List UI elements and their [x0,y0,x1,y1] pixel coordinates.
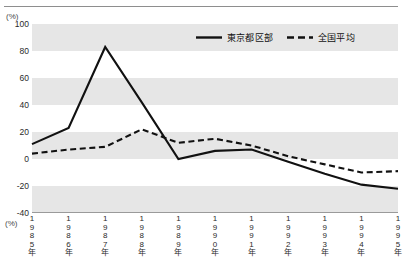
dashed-line-icon [287,33,313,42]
top-divider [4,6,398,7]
legend-label: 全国平均 [318,31,355,44]
y-axis-tick-label: 80 [20,47,29,56]
y-axis-tick-label: 40 [20,101,29,110]
solid-line-icon [196,33,222,42]
y-axis-unit-label-bottom: (%) [5,219,17,228]
x-axis-tick-label: 1 9 9 5 年 [392,215,404,258]
x-axis-tick-label: 1 9 9 4 年 [355,215,367,258]
plot-area [32,24,398,213]
legend-entry: 東京都区部 [196,31,273,44]
x-axis-tick-label: 1 9 8 7 年 [99,215,111,258]
legend-label: 東京都区部 [227,31,273,44]
x-axis-tick-label: 1 9 8 5 年 [26,215,38,258]
x-axis-tick-label: 1 9 8 9 年 [172,215,184,258]
y-axis-tick-label: -20 [17,182,29,191]
x-axis-tick-label: 1 9 8 6 年 [63,215,75,258]
y-axis-tick-label: 100 [15,20,29,29]
legend-entry: 全国平均 [287,31,355,44]
y-axis: 100806040200-20-40 [0,24,29,213]
x-axis-tick-label: 1 9 9 1 年 [246,215,258,258]
y-axis-tick-label: 60 [20,74,29,83]
x-axis-tick-label: 1 9 9 2 年 [282,215,294,258]
legend: 東京都区部全国平均 [196,30,355,44]
series-layer [32,24,398,213]
x-axis-baseline [32,212,398,213]
x-axis-tick-label: 1 9 9 3 年 [319,215,331,258]
x-axis: 1 9 8 5 年1 9 8 6 年1 9 8 7 年1 9 8 8 年1 9 … [32,215,398,263]
x-axis-tick-label: 1 9 8 8 年 [136,215,148,258]
y-axis-tick-label: 0 [24,155,29,164]
y-axis-tick-label: 20 [20,128,29,137]
x-axis-tick-label: 1 9 9 0 年 [209,215,221,258]
